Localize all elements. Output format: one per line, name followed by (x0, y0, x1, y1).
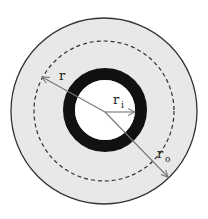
label-ro: r (157, 146, 164, 161)
label-ri-subscript: i (121, 100, 124, 110)
label-ri: r (113, 92, 120, 107)
inner-hole (75, 80, 135, 140)
label-r: r (59, 68, 66, 83)
annulus-diagram: r r i r o (0, 0, 208, 219)
label-ro-subscript: o (165, 154, 170, 164)
